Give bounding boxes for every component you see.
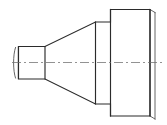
- stepped-shaft-drawing: [0, 0, 167, 125]
- technical-drawing-canvas: [0, 0, 167, 125]
